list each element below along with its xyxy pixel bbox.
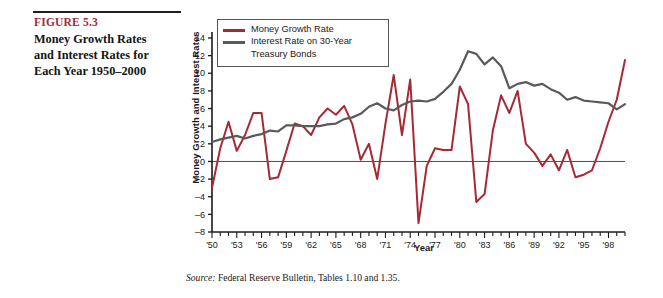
chart-area: Money Growth and Interest Rates 14121086…: [176, 14, 646, 262]
legend-label-money-growth-rate: Money Growth Rate: [251, 24, 334, 35]
x-axis-title: Year: [204, 242, 644, 253]
y-axis-tick-label: –4: [195, 192, 205, 202]
data-series-group: [212, 51, 625, 223]
figure-title: Money Growth Rates and Interest Rates fo…: [34, 32, 186, 80]
legend-swatch-interest-rate: [223, 41, 245, 44]
legend-item-interest-rate: Interest Rate on 30-Year: [223, 36, 383, 47]
legend-swatch-money-growth-rate: [223, 29, 245, 32]
figure-root: FIGURE 5.3 Money Growth Rates and Intere…: [0, 0, 663, 298]
source-text: Federal Reserve Bulletin, Tables 1.10 an…: [215, 272, 399, 283]
figure-caption-block: FIGURE 5.3 Money Growth Rates and Intere…: [34, 16, 186, 80]
y-axis-tick-label: 8: [200, 86, 205, 96]
y-axis-tick-label: 14: [195, 33, 205, 43]
y-axis-tick-label: 2: [200, 139, 205, 149]
y-axis-tick-label: 4: [200, 121, 205, 131]
source-note: Source: Federal Reserve Bulletin, Tables…: [186, 272, 400, 283]
y-axis-tick-label: 6: [200, 104, 205, 114]
y-axis-tick-label: –2: [195, 174, 205, 184]
legend-label-interest-rate-continued: Treasury Bonds: [251, 49, 383, 60]
y-axis-tick-label: 10: [195, 68, 205, 78]
y-axis-tick-label: 0: [200, 157, 205, 167]
legend-item-money-growth-rate: Money Growth Rate: [223, 24, 383, 35]
legend-label-interest-rate: Interest Rate on 30-Year: [251, 36, 352, 47]
figure-title-line-3: Each Year 1950–2000: [34, 64, 146, 78]
figure-number: FIGURE 5.3: [34, 16, 186, 29]
y-axis-tick-label: 12: [195, 51, 205, 61]
source-label: Source:: [186, 272, 215, 283]
chart-legend: Money Growth Rate Interest Rate on 30-Ye…: [217, 19, 389, 67]
figure-title-line-2: and Interest Rates for: [34, 48, 149, 62]
figure-title-line-1: Money Growth Rates: [34, 32, 146, 46]
series-line-money-growth-rate: [212, 60, 625, 223]
caption-top-rule: [33, 11, 181, 13]
y-axis-tick-label: –8: [195, 227, 205, 237]
y-axis-tick-label: –6: [195, 210, 205, 220]
